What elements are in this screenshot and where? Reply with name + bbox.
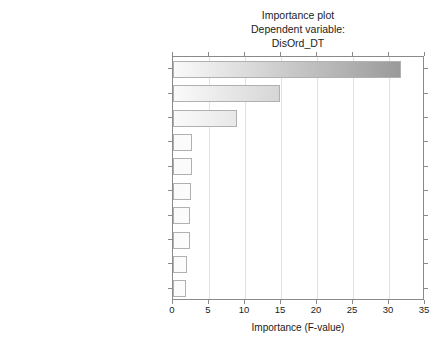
bar — [173, 183, 191, 200]
bar — [173, 85, 280, 102]
y-axis-tick — [168, 190, 172, 191]
gridline — [389, 57, 390, 299]
y-axis-tick-right — [424, 288, 428, 289]
x-axis-tick-label: 5 — [193, 304, 223, 315]
y-axis-tick-right — [424, 263, 428, 264]
gridline — [353, 57, 354, 299]
chart-title-block: Importance plot Dependent variable: DisO… — [172, 8, 424, 50]
y-axis-tick — [168, 215, 172, 216]
bar — [173, 280, 186, 297]
x-axis-tick-top — [424, 52, 425, 56]
x-axis-tick-label: 10 — [229, 304, 259, 315]
x-axis-tick-label: 35 — [409, 304, 439, 315]
y-axis-tick — [168, 117, 172, 118]
bar — [173, 207, 190, 224]
x-axis-tick-top — [172, 52, 173, 56]
gridline — [317, 57, 318, 299]
bar — [173, 134, 192, 151]
bar — [173, 110, 237, 127]
y-axis-tick-right — [424, 68, 428, 69]
x-axis-tick-label: 25 — [337, 304, 367, 315]
x-axis-tick-top — [280, 52, 281, 56]
y-axis-tick-right — [424, 117, 428, 118]
y-axis-tick — [168, 93, 172, 94]
x-axis-tick-top — [388, 52, 389, 56]
y-axis-tick — [168, 68, 172, 69]
chart-title: Importance plot — [172, 8, 424, 22]
importance-plot-figure: Importance plot Dependent variable: DisO… — [0, 0, 448, 346]
x-axis-tick-label: 15 — [265, 304, 295, 315]
chart-subtitle: Dependent variable: — [172, 22, 424, 36]
plot-area — [172, 56, 424, 300]
y-axis-tick-right — [424, 141, 428, 142]
x-axis-title: Importance (F-value) — [172, 322, 424, 333]
y-axis-tick-right — [424, 239, 428, 240]
bar — [173, 256, 187, 273]
y-axis-tick — [168, 166, 172, 167]
y-axis-tick — [168, 263, 172, 264]
y-axis-tick-right — [424, 215, 428, 216]
x-axis-tick-top — [208, 52, 209, 56]
y-axis-tick-right — [424, 166, 428, 167]
y-axis-tick-right — [424, 93, 428, 94]
y-axis-tick-right — [424, 190, 428, 191]
y-axis-tick — [168, 288, 172, 289]
x-axis-tick-label: 30 — [373, 304, 403, 315]
y-axis-tick-labels: Transfer to event timeBed is clean timeH… — [0, 0, 166, 346]
bar — [173, 232, 190, 249]
x-axis-tick-top — [316, 52, 317, 56]
chart-dependent-variable: DisOrd_DT — [172, 36, 424, 50]
x-axis-tick-top — [244, 52, 245, 56]
x-axis-tick-label: 0 — [157, 304, 187, 315]
y-axis-tick — [168, 141, 172, 142]
x-axis-tick-label: 20 — [301, 304, 331, 315]
y-axis-tick — [168, 239, 172, 240]
bar — [173, 158, 192, 175]
bar — [173, 61, 401, 78]
gridline — [281, 57, 282, 299]
x-axis-tick-top — [352, 52, 353, 56]
